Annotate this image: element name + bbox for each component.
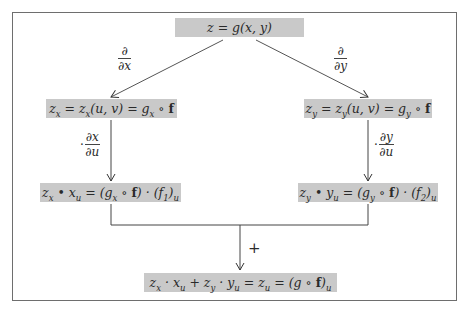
top-formula-box: z = g(x, y) bbox=[175, 18, 304, 37]
right-multiplier-label: ·∂y∂u bbox=[374, 130, 394, 159]
left-mid-formula-box: zx = zx(u, v) = gx ∘ f bbox=[46, 99, 177, 118]
arrows-layer bbox=[0, 0, 471, 317]
left-bottom-formula-box: zx • xu = (gx ∘ f) · (f1)u bbox=[40, 183, 181, 202]
right-mid-formula-box: zy = zy(u, v) = gy ∘ f bbox=[304, 99, 432, 118]
partial-x-label: ∂∂x bbox=[118, 44, 131, 73]
arrow-top-to-right bbox=[256, 40, 368, 97]
result-formula-box: zx · xu + zy · yu = zu = (g ∘ f)u bbox=[144, 273, 337, 292]
sum-connector bbox=[111, 204, 368, 225]
sum-plus-label: + bbox=[248, 239, 261, 257]
partial-y-label: ∂∂y bbox=[334, 44, 347, 73]
left-multiplier-label: ·∂x∂u bbox=[80, 130, 100, 159]
right-bottom-formula-box: zy • yu = (gy ∘ f) · (f2)u bbox=[298, 183, 438, 202]
